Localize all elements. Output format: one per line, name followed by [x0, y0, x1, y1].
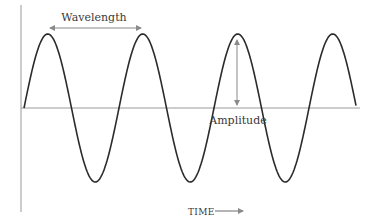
time-axis-label: TIME [188, 207, 215, 217]
amplitude-label: Amplitude [208, 114, 267, 127]
wave-diagram: Wavelength Amplitude TIME [0, 0, 383, 221]
wavelength-label: Wavelength [61, 11, 126, 24]
